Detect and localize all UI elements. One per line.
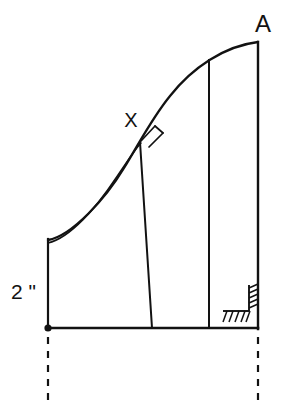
- ordinate-line-at-x: [140, 142, 152, 328]
- curve-point-label-x: X: [124, 109, 137, 131]
- main-curve: [48, 42, 258, 240]
- diagram-drawing: A X 2 ": [0, 0, 291, 420]
- height-dimension-label: 2 ": [11, 280, 36, 303]
- hatched-right-angle-corner: [223, 284, 258, 322]
- right-angle-mark-at-x: [141, 126, 163, 147]
- inner-offset-curve: [48, 143, 141, 243]
- apex-label-a: A: [255, 10, 271, 37]
- technical-diagram-canvas: A X 2 ": [0, 0, 291, 420]
- shaded-lens-region: [48, 143, 141, 243]
- origin-dot: [44, 324, 51, 331]
